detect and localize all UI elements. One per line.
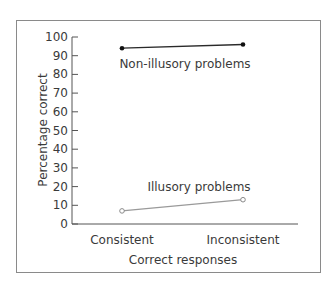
y-axis-title: Percentage correct [36,73,50,187]
y-tick-label: 100 [45,30,68,44]
data-point [120,209,125,214]
y-tick-label: 80 [53,67,68,81]
series-label-illusory: Illusory problems [147,180,250,194]
series-non-illusory [120,42,246,50]
y-tick-label: 0 [60,217,68,231]
y-ticks [72,37,78,224]
y-tick-label: 20 [53,180,68,194]
x-tick-label-inconsistent: Inconsistent [207,233,280,247]
x-tick-label-consistent: Consistent [90,233,154,247]
y-tick-label: 10 [53,198,68,212]
data-point [120,46,125,51]
data-point [241,42,246,47]
y-tick-label: 50 [53,124,68,138]
y-tick-label: 60 [53,105,68,119]
line-chart: 0 10 20 30 40 50 60 70 80 90 100 Percent… [0,0,334,287]
y-tick-label: 40 [53,142,68,156]
y-tick-label: 70 [53,86,68,100]
y-tick-label: 30 [53,161,68,175]
data-point [241,197,246,202]
series-label-non-illusory: Non-illusory problems [119,57,250,71]
x-axis-title: Correct responses [129,253,237,267]
y-tick-label: 90 [53,49,68,63]
series-illusory [120,197,246,213]
